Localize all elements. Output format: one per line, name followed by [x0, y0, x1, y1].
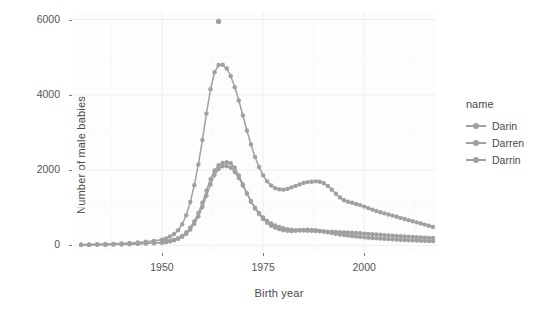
legend-key-icon: [466, 119, 486, 132]
legend-item-label: Darin: [492, 120, 517, 132]
y-tick-label: 4000: [20, 88, 60, 100]
x-tick-label: 2000: [339, 261, 389, 273]
chart-figure: Number of male babies Birth year 0200040…: [0, 0, 558, 310]
x-tickmark: [364, 253, 365, 256]
legend-item-label: Darrin: [492, 154, 521, 166]
y-tickmark: [69, 245, 72, 246]
legend-key-icon: [466, 136, 486, 149]
y-tickmark: [69, 170, 72, 171]
plot-panel: [73, 12, 437, 251]
legend-items: DarinDarrenDarrin: [466, 117, 554, 168]
legend-key-icon: [466, 153, 486, 166]
legend: name DarinDarrenDarrin: [466, 98, 554, 168]
y-axis-title: Number of male babies: [75, 96, 87, 214]
legend-item-label: Darren: [492, 137, 524, 149]
x-tick-label: 1975: [238, 261, 288, 273]
y-tickmark: [69, 95, 72, 96]
x-tickmark: [162, 253, 163, 256]
legend-item-darin[interactable]: Darin: [466, 117, 554, 134]
y-tickmark: [69, 20, 72, 21]
y-tick-label: 0: [20, 238, 60, 250]
x-axis-title: Birth year: [0, 287, 558, 299]
legend-title: name: [466, 98, 554, 110]
y-tick-label: 6000: [20, 13, 60, 25]
legend-item-darren[interactable]: Darren: [466, 134, 554, 151]
legend-item-darrin[interactable]: Darrin: [466, 151, 554, 168]
x-tickmark: [263, 253, 264, 256]
x-tick-label: 1950: [137, 261, 187, 273]
y-tick-label: 2000: [20, 163, 60, 175]
